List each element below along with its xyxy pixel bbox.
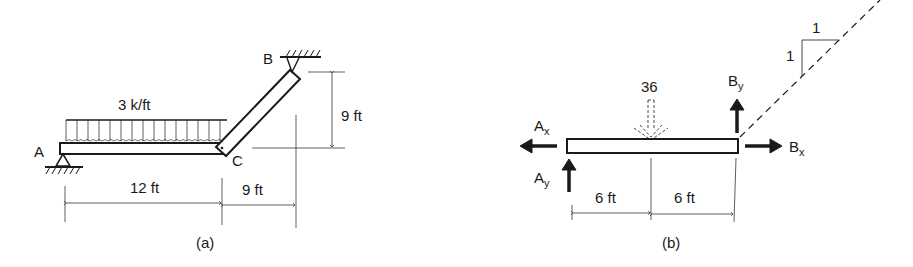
strut-CB (216, 70, 300, 156)
strut-line-of-action (740, 0, 880, 137)
figure-b: 36 1 1 Ax Ay By Bx (520, 0, 880, 251)
dim-strut-horizontal-label: 9 ft (242, 181, 264, 198)
pin-support-A-icon (45, 154, 83, 174)
load-label: 3 k/ft (118, 96, 151, 113)
force-Ax-label: Ax (534, 117, 550, 137)
force-By-arrow-icon (730, 99, 744, 133)
force-Ax-arrow-icon (520, 139, 557, 153)
caption-b: (b) (662, 234, 680, 251)
beam-free-body (567, 139, 738, 153)
dim-vertical-label: 9 ft (341, 107, 363, 124)
diagram-canvas: 3 k/ft A B C (0, 0, 913, 267)
label-A: A (34, 143, 44, 160)
slope-run-label: 1 (812, 19, 820, 36)
pin-support-B-icon (280, 50, 321, 72)
force-Ay-arrow-icon (562, 159, 576, 192)
force-Ay-label: Ay (534, 169, 550, 189)
distributed-load (66, 120, 227, 141)
dim-left-label: 6 ft (595, 189, 617, 206)
beam-AC (60, 143, 223, 154)
label-B: B (263, 50, 273, 67)
slope-rise-label: 1 (786, 47, 794, 64)
force-Bx-arrow-icon (745, 139, 782, 153)
figure-a: 3 k/ft A B C (34, 50, 363, 251)
force-Bx-label: Bx (789, 138, 805, 158)
label-C: C (232, 152, 243, 169)
resultant-load-label: 36 (641, 78, 658, 95)
pin-C-icon (221, 147, 224, 150)
resultant-load-arrow-icon (634, 100, 668, 140)
dim-beam-label: 12 ft (130, 179, 160, 196)
dim-right-label: 6 ft (674, 189, 696, 206)
force-By-label: By (728, 72, 744, 92)
caption-a: (a) (196, 234, 214, 251)
